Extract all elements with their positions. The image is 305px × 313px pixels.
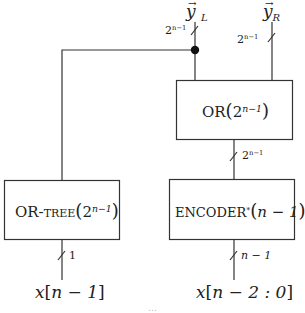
junction-dot — [191, 46, 199, 54]
caption-cutoff: … — [0, 303, 305, 313]
vector-arrow-yl: → — [188, 0, 196, 9]
bus-width-or-encoder: 2n−1 — [242, 150, 263, 161]
or-block-label: OR(2n−1) — [202, 102, 269, 120]
bus-width-yr: 2n−1 — [237, 34, 258, 45]
bus-width-or-tree-in: 1 — [69, 250, 76, 261]
bus-width-yl: 2n−1 — [165, 25, 186, 36]
bus-width-encoder-in: n − 1 — [241, 250, 271, 261]
input-label-right: x[n − 2 : 0] — [196, 284, 293, 301]
encoder-block-label: ENCODER*(n − 1) — [175, 202, 305, 220]
vector-arrow-yr: → — [265, 0, 273, 9]
wire-or-tree-out — [62, 50, 195, 180]
input-label-left: x[n − 1] — [35, 284, 105, 301]
or-tree-block-label: OR-tree(2n−1) — [15, 202, 119, 220]
